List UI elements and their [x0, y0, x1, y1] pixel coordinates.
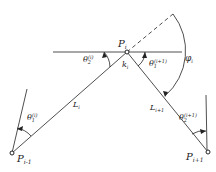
node-p-i-minus-1 — [10, 151, 14, 155]
label-k-i: ki — [122, 60, 129, 70]
label-l-i-plus-1: Li+1 — [149, 103, 164, 113]
left-reference-line — [12, 89, 27, 153]
right-reference-line — [206, 95, 207, 150]
label-p-i-minus-1: Pi-1 — [16, 153, 32, 165]
segment-right — [127, 52, 208, 152]
diagram-canvas: Pi Pi-1 Pi+1 Li Li+1 θ2(i) θ1(i+1) θ1(i)… — [0, 0, 216, 172]
label-theta1-i1: θ1(i+1) — [149, 58, 167, 69]
theta1-i1-arc — [138, 52, 145, 66]
label-theta1-i: θ1(i) — [27, 112, 38, 123]
label-p-i-plus-1: Pi+1 — [185, 151, 204, 163]
label-theta2-i1: θ2(i+1) — [179, 112, 197, 123]
segment-extension-dashed — [127, 14, 173, 52]
segment-left — [12, 52, 127, 153]
label-theta2-i: θ2(i) — [83, 54, 94, 65]
label-phi-i: φi — [185, 53, 193, 64]
node-p-i-plus-1 — [206, 150, 210, 154]
label-l-i: Li — [72, 100, 80, 110]
label-p-i: Pi — [117, 38, 127, 50]
node-p-i — [125, 50, 129, 54]
theta1-i1-arrow-icon — [142, 52, 147, 58]
theta2-i1-arrow-icon — [200, 129, 206, 134]
phi-arc — [165, 14, 186, 96]
